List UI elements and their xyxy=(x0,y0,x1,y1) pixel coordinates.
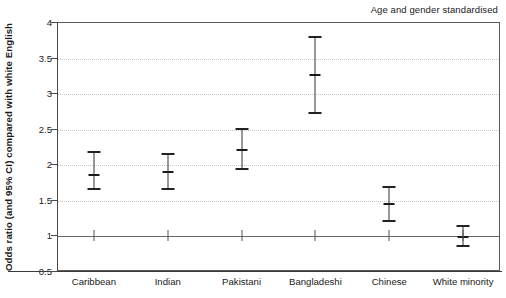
y-axis-tick-mark xyxy=(51,271,57,272)
y-axis-tick-mark xyxy=(51,58,57,59)
y-axis-tick-mark xyxy=(51,200,57,201)
chart-annotation: Age and gender standardised xyxy=(371,4,498,15)
error-bar-whisker xyxy=(241,128,242,168)
x-axis-category-label: White minority xyxy=(433,276,494,287)
error-bar-bangladeshi xyxy=(308,36,322,113)
gridline xyxy=(58,59,499,60)
error-bar-whisker xyxy=(93,151,94,188)
error-bar-upper-cap xyxy=(457,225,470,227)
category-tick-mark xyxy=(241,230,242,241)
point-estimate-marker xyxy=(162,171,173,173)
plot-area xyxy=(57,22,500,235)
error-bar-upper-cap xyxy=(309,36,322,38)
point-estimate-marker xyxy=(236,149,247,151)
error-bar-lower-cap xyxy=(383,220,396,222)
error-bar-upper-cap xyxy=(383,186,396,188)
error-bar-indian xyxy=(161,153,175,188)
error-bar-lower-cap xyxy=(309,112,322,114)
error-bar-lower-cap xyxy=(161,188,174,190)
error-bar-upper-cap xyxy=(161,153,174,155)
category-tick-mark xyxy=(463,230,464,241)
point-estimate-marker xyxy=(384,203,395,205)
gridline xyxy=(58,94,499,95)
x-axis-category-label: Caribbean xyxy=(72,276,116,287)
error-bar-lower-cap xyxy=(87,188,100,190)
y-axis-title: Odds ratio (and 95% CI) compared with wh… xyxy=(3,23,14,271)
category-tick-mark xyxy=(389,230,390,241)
y-axis-tick-mark xyxy=(51,129,57,130)
y-axis-title-container: Odds ratio (and 95% CI) compared with wh… xyxy=(0,18,16,276)
error-bar-lower-cap xyxy=(235,168,248,170)
point-estimate-marker xyxy=(310,74,321,76)
x-axis-category-label: Indian xyxy=(155,276,181,287)
error-bar-upper-cap xyxy=(87,151,100,153)
y-axis-tick-mark xyxy=(51,164,57,165)
category-tick-mark xyxy=(93,230,94,241)
gridline xyxy=(58,201,499,202)
error-bar-upper-cap xyxy=(235,128,248,130)
error-bar-caribbean xyxy=(87,151,101,188)
error-bar-chinese xyxy=(382,186,396,219)
category-tick-mark xyxy=(167,230,168,241)
y-axis-tick-mark xyxy=(51,22,57,23)
plot-area-lower xyxy=(57,235,500,271)
x-axis-category-label: Chinese xyxy=(372,276,407,287)
y-axis-tick-labels: 0.511.522.533.54 xyxy=(22,0,52,298)
error-bar-pakistani xyxy=(235,128,249,168)
y-axis-tick-mark xyxy=(51,235,57,236)
category-tick-mark xyxy=(315,230,316,241)
x-axis-line xyxy=(8,271,502,272)
x-axis-category-label: Bangladeshi xyxy=(289,276,342,287)
error-bar-lower-cap xyxy=(457,245,470,247)
gridline xyxy=(58,165,499,166)
y-axis-tick-mark xyxy=(51,93,57,94)
error-bar-whisker xyxy=(167,153,168,188)
odds-ratio-forest-chart: Age and gender standardised Odds ratio (… xyxy=(0,0,506,298)
point-estimate-marker xyxy=(88,174,99,176)
x-axis-category-label: Pakistani xyxy=(222,276,261,287)
gridline xyxy=(58,130,499,131)
y-axis-spine xyxy=(57,22,58,271)
